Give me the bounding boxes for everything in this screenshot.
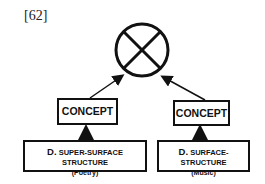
structure-title: SURFACE-STRUCTURE xyxy=(180,148,228,167)
structure-subtitle: (Poetry) xyxy=(25,168,145,178)
concept-box-left: CONCEPT xyxy=(57,98,118,125)
circle-x-icon xyxy=(116,24,168,76)
structure-title: SUPER-SURFACE STRUCTURE xyxy=(59,148,123,167)
structure-subtitle: (Music) xyxy=(159,168,248,178)
concept-box-right: CONCEPT xyxy=(173,100,230,126)
arrow-left-up xyxy=(90,76,122,98)
super-surface-structure-box: D. SUPER-SURFACE STRUCTURE (Poetry) xyxy=(23,140,147,172)
structure-prefix: D. xyxy=(179,146,189,157)
arrow-right-up xyxy=(163,77,205,100)
concept-label: CONCEPT xyxy=(176,107,227,119)
concept-label: CONCEPT xyxy=(62,105,113,117)
structure-prefix: D. xyxy=(47,146,57,157)
surface-structure-box: D. SURFACE-STRUCTURE (Music) xyxy=(157,140,250,172)
